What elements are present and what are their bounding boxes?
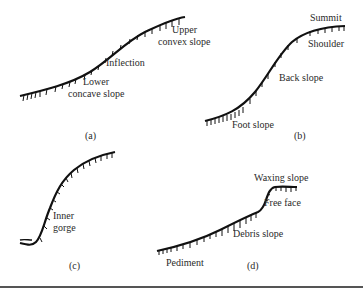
label-waxing-slope: Waxing slope bbox=[254, 172, 308, 183]
caption-a: (a) bbox=[85, 130, 96, 141]
label-inner-gorge-line1: Inner bbox=[53, 210, 74, 221]
label-foot-slope: Foot slope bbox=[232, 119, 274, 130]
bottom-rule-divider bbox=[0, 286, 363, 288]
caption-c: (c) bbox=[69, 260, 80, 271]
label-pediment: Pediment bbox=[166, 257, 204, 268]
label-summit: Summit bbox=[310, 12, 342, 23]
label-lower-concave-slope-line2: concave slope bbox=[68, 88, 124, 99]
label-back-slope: Back slope bbox=[279, 72, 323, 83]
caption-d: (d) bbox=[247, 260, 259, 271]
label-inflection: Inflection bbox=[106, 57, 145, 68]
label-lower-concave-slope-line1: Lower bbox=[83, 76, 109, 87]
label-upper-convex-slope-line2: convex slope bbox=[158, 36, 211, 47]
label-free-face: Free face bbox=[264, 197, 301, 208]
caption-b: (b) bbox=[294, 130, 306, 141]
label-upper-convex-slope-line1: Upper bbox=[172, 24, 197, 35]
label-debris-slope: Debris slope bbox=[233, 228, 283, 239]
label-shoulder: Shoulder bbox=[308, 38, 344, 49]
label-inner-gorge-line2: gorge bbox=[53, 222, 76, 233]
